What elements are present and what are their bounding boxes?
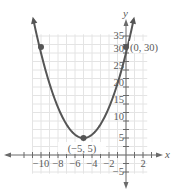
y-tick-label: 35 xyxy=(114,30,125,41)
curve-left-arrow-icon xyxy=(31,17,37,25)
vertex-label: (−5, 5) xyxy=(68,143,97,155)
y-tick-label: 5 xyxy=(119,132,124,143)
y-tick-label: −5 xyxy=(113,166,124,177)
y-intercept-label: (0, 30) xyxy=(130,42,158,54)
point-left xyxy=(38,44,44,50)
x-axis-right-arrow-icon xyxy=(156,153,163,158)
y-axis-label: y xyxy=(122,7,128,19)
x-tick-label: −10 xyxy=(33,158,49,169)
y-tick-label: 10 xyxy=(114,111,125,122)
y-tick-label: 15 xyxy=(114,94,125,105)
y-axis-up-arrow-icon xyxy=(124,19,129,26)
y-axis-down-arrow-icon xyxy=(124,182,129,189)
x-tick-label: −6 xyxy=(69,158,80,169)
x-tick-label: −8 xyxy=(52,158,63,169)
point-y-intercept xyxy=(123,44,129,50)
point-vertex xyxy=(81,135,87,141)
x-axis-left-arrow-icon xyxy=(4,153,11,158)
curve-right-arrow-icon xyxy=(130,17,136,25)
x-tick-label: 2 xyxy=(140,158,145,169)
parabola-chart: −10 −8 −6 −4 −2 2 35 30 25 20 15 10 5 −5… xyxy=(0,0,172,191)
x-tick-label: −4 xyxy=(86,158,98,169)
y-tick-label: 30 xyxy=(114,43,125,54)
x-axis-label: x xyxy=(164,148,170,160)
